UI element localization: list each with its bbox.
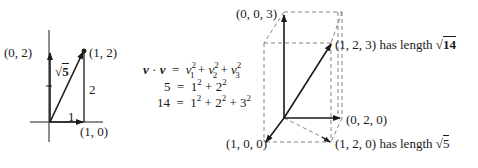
vector-1-2-0-head — [322, 137, 330, 142]
label-sqrt5-2d: √5 — [55, 65, 69, 78]
label-1-0: (1, 0) — [80, 125, 108, 138]
label-0-0-3: (0, 0, 3) — [236, 7, 277, 20]
label-0-2: (0, 2) — [4, 46, 32, 59]
point-1-2 — [82, 49, 86, 53]
x-vector — [266, 118, 284, 142]
label-leg-2: 2 — [89, 83, 96, 96]
label-0-2-0: (0, 2, 0) — [346, 113, 387, 126]
label-leg-1: 1 — [68, 110, 75, 123]
label-1-2-0: (1, 2, 0) has length √5 — [335, 137, 449, 150]
vector-1-2-3 — [284, 44, 331, 118]
label-1-2-3: (1, 2, 3) has length √14 — [335, 38, 456, 51]
diagram-3d — [264, 12, 342, 142]
projection-1-2-0 — [284, 118, 328, 140]
label-1-0-0: (1, 0, 0) — [226, 137, 267, 150]
equation-line-2: 5 = 12 + 22 — [164, 78, 227, 93]
equation-line-3: 14 = 12 + 22 + 32 — [157, 94, 251, 109]
label-1-2: (1, 2) — [89, 46, 117, 59]
